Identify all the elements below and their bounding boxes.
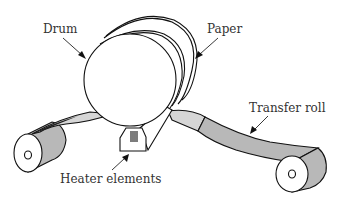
drum-arrow — [63, 38, 82, 55]
fuser-diagram: Drum Paper Transfer roll Heater elements — [0, 0, 345, 199]
label-paper: Paper — [207, 22, 242, 36]
transfer-belt-right — [198, 117, 318, 162]
label-heater-elements: Heater elements — [60, 172, 161, 186]
heater-arrowhead-icon — [122, 154, 129, 162]
heater-arrow — [112, 158, 125, 170]
paper-arrow — [200, 38, 218, 54]
transfer-roll-arrowhead-icon — [250, 126, 257, 134]
drum — [84, 34, 176, 126]
label-drum: Drum — [43, 22, 78, 36]
transfer-roll-arrow — [254, 116, 268, 130]
label-transfer-roll: Transfer roll — [249, 101, 326, 115]
